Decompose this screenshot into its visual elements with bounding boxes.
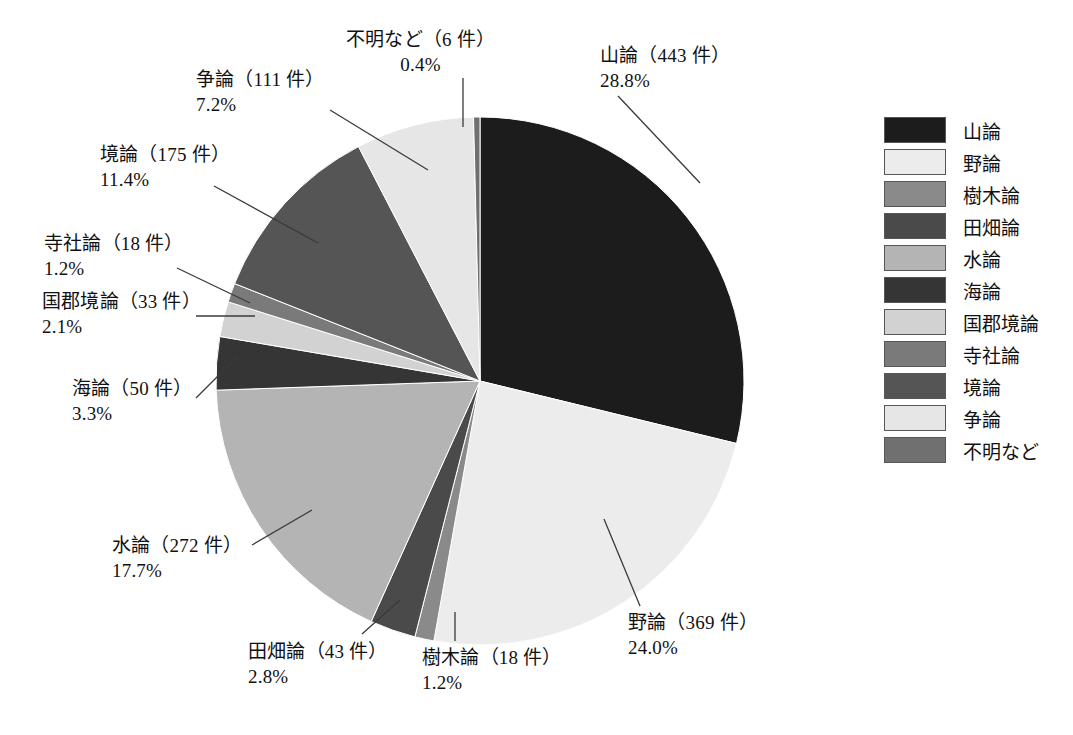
legend-swatch-icon — [884, 309, 946, 335]
pie-label-percent: 11.4% — [100, 168, 230, 193]
pie-label-percent: 7.2% — [196, 93, 325, 118]
pie-label-title: 山論（443 件） — [600, 44, 730, 69]
legend-item-4[interactable]: 水論 — [884, 242, 1064, 274]
legend-item-label: 野論 — [963, 149, 1001, 176]
chart-legend: 山論野論樹木論田畑論水論海論国郡境論寺社論境論争論不明など — [884, 114, 1064, 466]
legend-item-7[interactable]: 寺社論 — [884, 338, 1064, 370]
pie-label-percent: 3.3% — [72, 402, 192, 427]
legend-swatch-icon — [884, 405, 946, 431]
legend-item-3[interactable]: 田畑論 — [884, 210, 1064, 242]
pie-label-title: 国郡境論（33 件） — [42, 290, 201, 315]
legend-swatch-icon — [884, 341, 946, 367]
pie-label-sakairon: 境論（175 件）11.4% — [100, 143, 230, 192]
pie-label-title: 海論（50 件） — [72, 377, 192, 402]
legend-swatch-icon — [884, 213, 946, 239]
pie-label-souron: 争論（111 件）7.2% — [196, 68, 325, 117]
pie-label-jisharon: 寺社論（18 件）1.2% — [44, 232, 184, 281]
pie-label-title: 境論（175 件） — [100, 143, 230, 168]
legend-item-10[interactable]: 不明など — [884, 434, 1064, 466]
legend-item-5[interactable]: 海論 — [884, 274, 1064, 306]
legend-item-label: 水論 — [963, 245, 1001, 272]
pie-label-title: 寺社論（18 件） — [44, 232, 184, 257]
pie-label-jumoku: 樹木論（18 件）1.2% — [422, 646, 562, 695]
pie-label-title: 争論（111 件） — [196, 68, 325, 93]
pie-label-percent: 2.1% — [42, 315, 201, 340]
pie-label-title: 樹木論（18 件） — [422, 646, 562, 671]
pie-label-kairon: 海論（50 件）3.3% — [72, 377, 192, 426]
pie-label-percent: 28.8% — [600, 69, 730, 94]
pie-slices-group — [216, 117, 744, 645]
pie-label-title: 不明など（6 件） — [346, 28, 495, 53]
pie-label-sanron: 山論（443 件）28.8% — [600, 44, 730, 93]
pie-label-fumei: 不明など（6 件）0.4% — [346, 28, 495, 77]
legend-item-label: 寺社論 — [963, 341, 1020, 368]
legend-item-label: 争論 — [963, 405, 1001, 432]
legend-swatch-icon — [884, 117, 946, 143]
legend-item-8[interactable]: 境論 — [884, 370, 1064, 402]
pie-label-percent: 1.2% — [44, 257, 184, 282]
legend-item-label: 海論 — [963, 277, 1001, 304]
legend-item-2[interactable]: 樹木論 — [884, 178, 1064, 210]
legend-swatch-icon — [884, 149, 946, 175]
legend-swatch-icon — [884, 277, 946, 303]
legend-swatch-icon — [884, 181, 946, 207]
legend-item-label: 境論 — [963, 373, 1001, 400]
legend-item-0[interactable]: 山論 — [884, 114, 1064, 146]
legend-item-label: 国郡境論 — [963, 309, 1039, 336]
legend-swatch-icon — [884, 373, 946, 399]
pie-label-percent: 1.2% — [422, 671, 562, 696]
legend-item-label: 不明など — [963, 437, 1039, 464]
legend-item-label: 田畑論 — [963, 213, 1020, 240]
pie-label-title: 水論（272 件） — [112, 534, 242, 559]
pie-label-percent: 17.7% — [112, 559, 242, 584]
pie-label-suiron: 水論（272 件）17.7% — [112, 534, 242, 583]
legend-swatch-icon — [884, 437, 946, 463]
pie-label-title: 野論（369 件） — [628, 611, 758, 636]
pie-label-title: 田畑論（43 件） — [248, 640, 388, 665]
pie-label-yaron: 野論（369 件）24.0% — [628, 611, 758, 660]
legend-item-label: 樹木論 — [963, 181, 1020, 208]
legend-item-label: 山論 — [963, 117, 1001, 144]
legend-item-9[interactable]: 争論 — [884, 402, 1064, 434]
legend-swatch-icon — [884, 245, 946, 271]
pie-label-kokugun: 国郡境論（33 件）2.1% — [42, 290, 201, 339]
pie-label-percent: 24.0% — [628, 636, 758, 661]
legend-item-6[interactable]: 国郡境論 — [884, 306, 1064, 338]
legend-item-1[interactable]: 野論 — [884, 146, 1064, 178]
pie-label-tahata: 田畑論（43 件）2.8% — [248, 640, 388, 689]
pie-label-percent: 2.8% — [248, 665, 388, 690]
pie-label-percent: 0.4% — [346, 53, 495, 78]
pie-chart-figure: 不明など（6 件）0.4%山論（443 件）28.8%争論（111 件）7.2%… — [0, 0, 1073, 735]
